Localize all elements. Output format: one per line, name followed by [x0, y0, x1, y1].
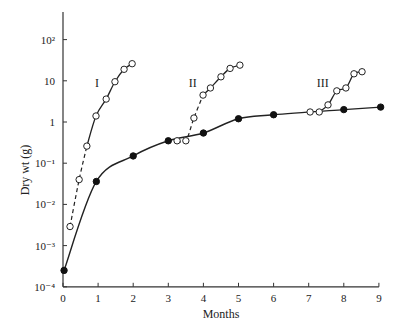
- curve-label-I: I: [95, 76, 99, 90]
- x-axis-label: Months: [203, 307, 240, 321]
- open-point-marker: [316, 109, 322, 115]
- filled-point-marker: [130, 153, 136, 159]
- y-tick-label: 1: [50, 116, 56, 128]
- open-point-marker: [84, 143, 90, 149]
- open-point-marker: [334, 88, 340, 94]
- x-tick-label: 8: [341, 292, 347, 304]
- open-point-marker: [67, 223, 73, 229]
- open-point-marker: [93, 113, 99, 119]
- x-tick-label: 2: [130, 292, 136, 304]
- x-tick-label: 5: [236, 292, 242, 304]
- y-tick-label: 10⁻¹: [35, 157, 55, 169]
- open-point-marker: [191, 115, 197, 121]
- x-tick-label: 9: [376, 292, 382, 304]
- x-tick-label: 3: [166, 292, 172, 304]
- x-tick-label: 7: [306, 292, 312, 304]
- y-axis-label: Dry wt (g): [18, 145, 32, 196]
- open-point-marker: [76, 176, 82, 182]
- curve-I: [87, 64, 132, 146]
- x-tick-label: 4: [201, 292, 207, 304]
- open-point-marker: [307, 109, 313, 115]
- open-point-marker: [103, 96, 109, 102]
- filled-point-marker: [341, 106, 347, 112]
- y-tick-label: 10⁻⁴: [34, 281, 55, 293]
- filled-point-marker: [165, 138, 171, 144]
- y-tick-label: 10²: [41, 34, 56, 46]
- filled-point-marker: [235, 116, 241, 122]
- open-point-marker: [325, 102, 331, 108]
- filled-point-marker: [93, 178, 99, 184]
- open-point-marker: [227, 65, 233, 71]
- x-tick-label: 0: [60, 292, 66, 304]
- open-point-marker: [174, 138, 180, 144]
- filled-point-marker: [61, 267, 67, 273]
- curve-dashed-I: [70, 146, 87, 226]
- curve-dashed-II: [177, 95, 203, 142]
- curves: [64, 64, 381, 271]
- filled-point-marker: [377, 104, 383, 110]
- curve-main: [64, 107, 381, 270]
- filled-point-marker: [200, 130, 206, 136]
- open-point-marker: [207, 85, 213, 91]
- y-tick-label: 10: [44, 75, 56, 87]
- x-tick-label: 6: [271, 292, 277, 304]
- open-point-marker: [129, 61, 135, 67]
- axes: 012345678910⁻⁴10⁻³10⁻²10⁻¹11010²: [34, 12, 382, 304]
- growth-chart: 012345678910⁻⁴10⁻³10⁻²10⁻¹11010² IIIIII …: [0, 0, 407, 329]
- open-point-marker: [121, 66, 127, 72]
- open-point-marker: [112, 79, 118, 85]
- open-point-marker: [183, 138, 189, 144]
- y-tick-label: 10⁻³: [35, 240, 56, 252]
- open-point-marker: [351, 71, 357, 77]
- filled-point-marker: [270, 112, 276, 118]
- open-point-marker: [237, 62, 243, 68]
- open-point-marker: [218, 74, 224, 80]
- open-point-marker: [359, 69, 365, 75]
- curve-label-III: III: [317, 76, 329, 90]
- open-point-marker: [200, 92, 206, 98]
- y-tick-label: 10⁻²: [35, 198, 56, 210]
- curve-label-II: II: [189, 76, 197, 90]
- x-tick-label: 1: [95, 292, 101, 304]
- open-point-marker: [343, 85, 349, 91]
